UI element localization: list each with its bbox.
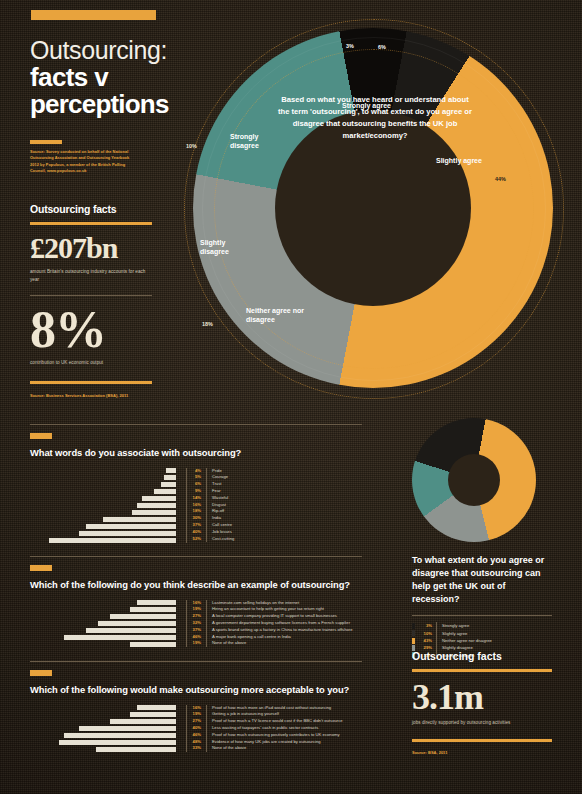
block1-tag: [30, 565, 52, 571]
bar-fill: [166, 468, 176, 473]
legend-label: A sports brand setting up a factory in C…: [206, 627, 362, 634]
bar-row: [30, 726, 176, 731]
block1-rule: [30, 556, 362, 557]
legend-item: 16%Proof of how much more an iPad would …: [187, 705, 362, 712]
recession-legend-label: Neither agree nor disagree: [436, 637, 492, 644]
bar-fill: [130, 712, 176, 717]
donut-label-strongly-agree: Strongly agree: [342, 101, 391, 110]
legend-percent: 27%: [187, 613, 201, 620]
facts-right-stat-value: 3.1m: [412, 680, 552, 714]
legend-label: Pride: [206, 468, 362, 475]
bar-row: [30, 482, 176, 487]
bar-fill: [110, 614, 176, 619]
legend-percent: 32%: [187, 620, 201, 627]
legend-item: 5%Courage: [187, 474, 362, 481]
donut-pct-slightly-agree: 44%: [495, 176, 506, 182]
donut-pct-neither: 18%: [202, 321, 213, 327]
bar-row: [30, 510, 176, 515]
legend-label: Disgust: [206, 502, 362, 509]
bar-fill: [142, 496, 176, 501]
legend-percent: 16%: [187, 705, 201, 712]
outsourcing-facts-right: Outsourcing facts 3.1m jobs directly sup…: [412, 650, 552, 757]
bar-fill: [79, 531, 176, 536]
bar-fill: [98, 621, 176, 626]
legend-item: 48%Evidence of how many UK jobs are crea…: [187, 739, 362, 746]
bar-row: [30, 489, 176, 494]
facts-left-divider-bottom: [30, 381, 152, 384]
donut-pct-strongly-disagree: 10%: [186, 143, 197, 149]
legend-item: 19%None of the above: [187, 640, 362, 647]
block0-legend: 4%Pride5%Courage6%Trust9%Fear14%Wasteful…: [186, 468, 362, 543]
legend-item: 37%Call centre: [187, 522, 362, 529]
block2-rule: [30, 661, 362, 662]
recession-question: To what extent do you agree or disagree …: [412, 554, 552, 606]
bar-fill: [64, 733, 176, 738]
legend-item: 46%Proof of how much outsourcing positiv…: [187, 732, 362, 739]
legend-percent: 14%: [187, 495, 201, 502]
legend-label: A government department buying software …: [206, 620, 362, 627]
facts-right-heading: Outsourcing facts: [412, 650, 552, 662]
legend-percent: 27%: [187, 718, 201, 725]
bar-fill: [130, 607, 176, 612]
legend-label: Call centre: [206, 522, 362, 529]
main-donut-chart: Based on what you have heard or understa…: [178, 16, 568, 416]
facts-left-divider-mid: [30, 295, 152, 296]
block2-legend: 16%Proof of how much more an iPad would …: [186, 705, 362, 753]
recession-legend-label: Strongly agree: [436, 622, 469, 629]
legend-label: None of the above: [206, 640, 362, 647]
bar-fill: [96, 747, 176, 752]
bar-row: [30, 642, 176, 647]
legend-percent: 16%: [187, 600, 201, 607]
legend-label: India: [206, 515, 362, 522]
legend-label: A local computer company providing IT su…: [206, 613, 362, 620]
donut-label-neither: Neither agree nor disagree: [246, 306, 312, 325]
legend-label: Rip-off: [206, 508, 362, 515]
bar-fill: [49, 538, 176, 543]
facts-left-stat1-value: £207bn: [30, 234, 152, 263]
recession-legend-percent: 3%: [419, 622, 432, 629]
source-accent-bar: [30, 140, 62, 144]
legend-percent: 5%: [187, 474, 201, 481]
donut-label-strongly-disagree: Strongly disagree: [230, 132, 280, 151]
outsourcing-facts-left: Outsourcing facts £207bn amount Britain'…: [30, 203, 152, 399]
legend-label: None of the above: [206, 745, 362, 752]
recession-legend-item: 3%Strongly agree: [412, 622, 552, 629]
header-accent-bar: [31, 10, 156, 20]
bar-row: [30, 747, 176, 752]
legend-swatch: [412, 638, 415, 644]
bar-fill: [132, 510, 176, 515]
legend-percent: 46%: [187, 732, 201, 739]
chart-block-acceptable: Which of the following would make outsou…: [30, 661, 362, 752]
legend-percent: 52%: [187, 536, 201, 543]
bar-row: [30, 524, 176, 529]
block1-title: Which of the following do you think desc…: [30, 579, 362, 592]
bar-fill: [103, 517, 176, 522]
bar-row: [30, 740, 176, 745]
legend-label: Fear: [206, 488, 362, 495]
block2-tag: [30, 670, 52, 676]
bar-fill: [154, 489, 176, 494]
block0-tag: [30, 433, 52, 439]
bar-row: [30, 712, 176, 717]
legend-label: Proof of how much outsourcing positively…: [206, 732, 362, 739]
legend-percent: 9%: [187, 488, 201, 495]
donut-pct-top-small: 6%: [378, 44, 386, 50]
legend-label: Proof of how much more an iPad would cos…: [206, 705, 362, 712]
legend-percent: 37%: [187, 522, 201, 529]
legend-item: 18%Rip-off: [187, 508, 362, 515]
chart-block-examples: Which of the following do you think desc…: [30, 556, 362, 647]
legend-swatch: [412, 623, 415, 629]
legend-percent: 40%: [187, 725, 201, 732]
bar-fill: [137, 705, 176, 710]
legend-percent: 18%: [187, 508, 201, 515]
legend-percent: 19%: [187, 640, 201, 647]
legend-percent: 6%: [187, 481, 201, 488]
legend-label: Cost-cutting: [206, 536, 362, 543]
legend-item: 6%Trust: [187, 481, 362, 488]
bar-fill: [64, 635, 176, 640]
legend-percent: 37%: [187, 627, 201, 634]
bar-fill: [86, 628, 176, 633]
legend-item: 4%Pride: [187, 468, 362, 475]
bar-fill: [86, 524, 176, 529]
bar-fill: [59, 740, 176, 745]
